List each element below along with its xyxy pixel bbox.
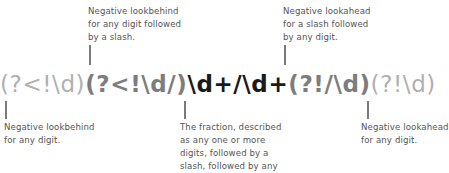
- leader-line-lookahead-slash-digit: [284, 45, 286, 65]
- leader-line-lookbehind-digit: [5, 101, 7, 119]
- leader-line-fraction: [184, 101, 186, 119]
- regex-segment-lookbehind-digit-slash: (?<!\d/): [85, 71, 187, 97]
- annotation-lookbehind-digit: Negative lookbehind for any digit.: [4, 121, 95, 147]
- annotation-lookahead-slash-digit: Negative lookahead for a slash followed …: [283, 5, 371, 44]
- regex-segment-lookahead-digit: (?!\d): [371, 71, 436, 97]
- annotation-fraction: The fraction, described as any one or mo…: [180, 121, 282, 173]
- regex-segment-lookbehind-digit: (?<!\d): [0, 71, 85, 97]
- leader-line-lookahead-digit: [367, 101, 369, 119]
- annotation-lookahead-digit: Negative lookahead for any digit.: [361, 121, 449, 147]
- annotation-lookbehind-digit-slash: Negative lookbehind for any digit follow…: [88, 5, 181, 44]
- regex-segment-lookahead-slash-digit: (?!/\d): [288, 71, 370, 97]
- regex-segment-fraction: \d+/\d+: [187, 71, 288, 97]
- regex-expression: (?<!\d)(?<!\d/)\d+/\d+(?!/\d)(?!\d): [0, 69, 436, 99]
- leader-line-lookbehind-digit-slash: [89, 45, 91, 65]
